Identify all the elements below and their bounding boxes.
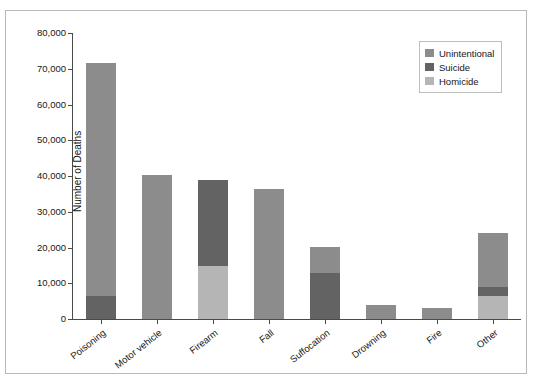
x-tick-mark (269, 319, 270, 324)
y-tick-mark (68, 33, 73, 34)
y-tick-mark (68, 105, 73, 106)
bar-segment[interactable] (478, 296, 508, 319)
bar-segment[interactable] (86, 296, 116, 319)
y-tick-mark (68, 176, 73, 177)
bar-segment[interactable] (310, 247, 340, 273)
x-tick-mark (493, 319, 494, 324)
y-tick-mark (68, 69, 73, 70)
legend-swatch-icon (425, 63, 434, 71)
bar-segment[interactable] (478, 233, 508, 287)
bar-column[interactable] (310, 33, 340, 319)
bar-segment[interactable] (366, 305, 396, 319)
x-tick-mark (157, 319, 158, 324)
y-tick-label: 80,000 (17, 27, 66, 38)
legend-item[interactable]: Suicide (425, 60, 494, 74)
y-tick-label: 50,000 (17, 134, 66, 145)
y-tick-mark (68, 283, 73, 284)
x-tick-label: Poisoning (6, 327, 107, 384)
y-tick-mark (68, 140, 73, 141)
y-tick-label: 0 (17, 313, 66, 324)
y-tick-mark (68, 248, 73, 249)
y-axis-title: Number of Deaths (72, 131, 83, 212)
chart-frame: Number of Deaths 010,00020,00030,00040,0… (5, 10, 527, 374)
y-tick-label: 20,000 (17, 242, 66, 253)
bar-segment[interactable] (142, 175, 172, 319)
y-tick-label: 10,000 (17, 277, 66, 288)
x-tick-mark (437, 319, 438, 324)
bar-segment[interactable] (198, 180, 228, 267)
y-tick-mark (68, 319, 73, 320)
x-tick-mark (325, 319, 326, 324)
bar-segment[interactable] (310, 273, 340, 319)
legend-label: Suicide (439, 62, 470, 73)
bar-column[interactable] (142, 33, 172, 319)
y-tick-mark (68, 212, 73, 213)
legend-swatch-icon (425, 77, 434, 85)
bar-segment[interactable] (422, 308, 452, 319)
x-tick-mark (213, 319, 214, 324)
y-tick-label: 70,000 (17, 63, 66, 74)
y-tick-label: 60,000 (17, 99, 66, 110)
legend-item[interactable]: Homicide (425, 74, 494, 88)
bar-column[interactable] (254, 33, 284, 319)
bar-segment[interactable] (198, 266, 228, 319)
legend-label: Homicide (439, 76, 479, 87)
bar-column[interactable] (198, 33, 228, 319)
y-tick-label: 30,000 (17, 206, 66, 217)
x-tick-mark (381, 319, 382, 324)
legend-item[interactable]: Unintentional (425, 46, 494, 60)
x-tick-mark (101, 319, 102, 324)
bar-segment[interactable] (86, 63, 116, 295)
bar-column[interactable] (366, 33, 396, 319)
bar-segment[interactable] (478, 287, 508, 296)
bar-column[interactable] (86, 33, 116, 319)
y-tick-label: 40,000 (17, 170, 66, 181)
legend-swatch-icon (425, 49, 434, 57)
legend-label: Unintentional (439, 48, 494, 59)
bar-segment[interactable] (254, 189, 284, 319)
legend: UnintentionalSuicideHomicide (419, 41, 502, 93)
